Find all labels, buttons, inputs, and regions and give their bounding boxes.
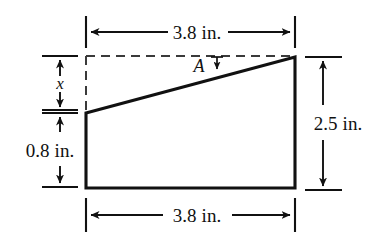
right-dimension-label: 2.5 in. — [314, 113, 363, 134]
trapezoid-shape-group — [86, 57, 295, 188]
top-dimension-group: 3.8 in. — [86, 16, 295, 48]
bottom-dimension-group: 3.8 in. — [86, 198, 295, 232]
angle-label-A: A — [193, 56, 206, 76]
left-lower-dimension-group: 0.8 in. — [26, 113, 78, 187]
angle-label-group: A — [193, 56, 224, 76]
left-lower-dimension-label: 0.8 in. — [26, 140, 75, 161]
bottom-dimension-label: 3.8 in. — [173, 205, 222, 226]
figure-canvas: 3.8 in. A x — [0, 0, 378, 242]
right-dimension-group: 2.5 in. — [305, 57, 362, 190]
top-dimension-label: 3.8 in. — [173, 22, 222, 43]
geometry-figure: 3.8 in. A x — [0, 0, 378, 242]
left-upper-dimension-label: x — [55, 74, 64, 93]
trapezoid-outline — [86, 57, 295, 188]
left-upper-dimension-group: x — [42, 56, 78, 110]
